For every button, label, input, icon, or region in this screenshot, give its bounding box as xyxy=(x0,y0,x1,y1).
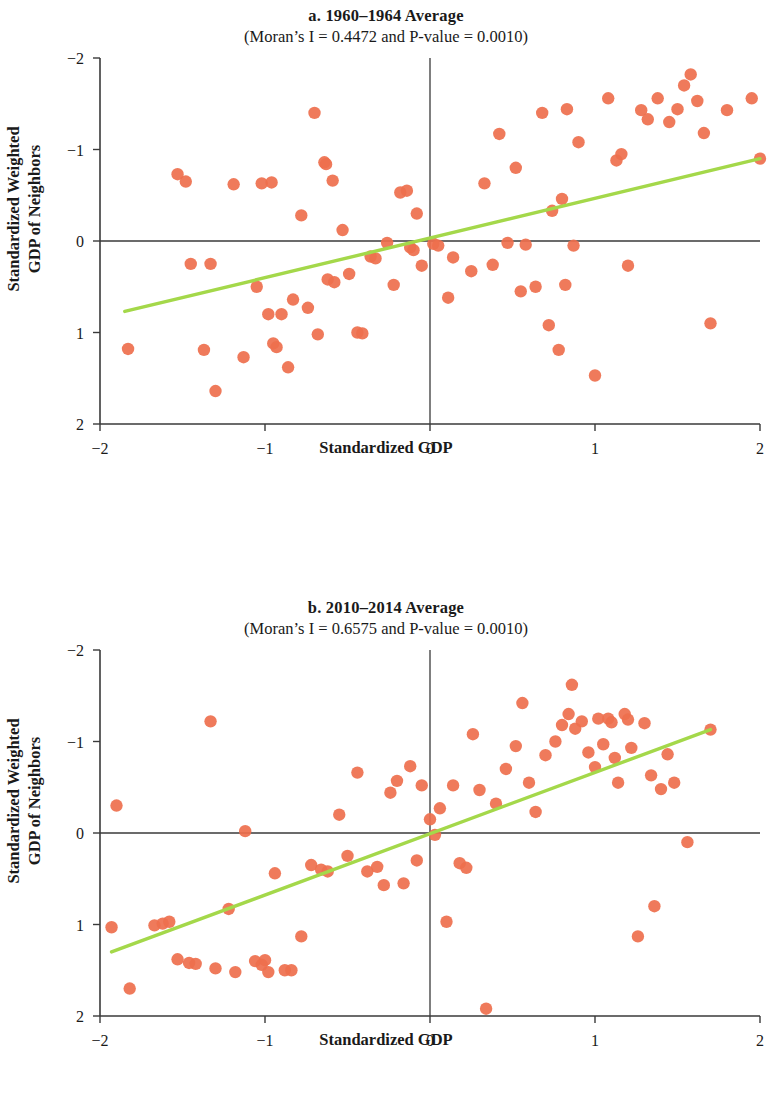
scatter-point xyxy=(411,207,423,219)
chart-panel-a: a. 1960–1964 Average (Moran’s I = 0.4472… xyxy=(0,0,772,560)
scatter-point xyxy=(467,728,479,740)
scatter-point xyxy=(566,679,578,691)
scatter-point xyxy=(543,319,555,331)
panel-b-subtitle: (Moran’s I = 0.6575 and P-value = 0.0010… xyxy=(0,618,772,640)
scatter-point xyxy=(652,92,664,104)
scatter-point xyxy=(239,825,251,837)
panel-a-y-axis-title-line2: GDP of Neighbors xyxy=(25,145,44,273)
scatter-point xyxy=(493,128,505,140)
scatter-point xyxy=(642,113,654,125)
scatter-point xyxy=(265,176,277,188)
panel-b-scatter-svg: −2−1012210−1−2 xyxy=(0,640,772,1060)
scatter-point xyxy=(645,769,657,781)
y-tick-label: −2 xyxy=(67,642,84,659)
panel-b-titles: b. 2010–2014 Average (Moran’s I = 0.6575… xyxy=(0,560,772,640)
scatter-point xyxy=(190,958,202,970)
scatter-point xyxy=(407,244,419,256)
scatter-point xyxy=(691,95,703,107)
scatter-point xyxy=(124,982,136,994)
panel-b-title: b. 2010–2014 Average xyxy=(0,598,772,618)
panel-a-titles: a. 1960–1964 Average (Moran’s I = 0.4472… xyxy=(0,0,772,48)
scatter-point xyxy=(320,158,332,170)
scatter-point xyxy=(401,184,413,196)
scatter-point xyxy=(442,292,454,304)
scatter-point xyxy=(582,746,594,758)
y-tick-label: 2 xyxy=(76,416,84,433)
scatter-point xyxy=(440,916,452,928)
scatter-point xyxy=(171,953,183,965)
scatter-point xyxy=(460,862,472,874)
scatter-point xyxy=(500,763,512,775)
scatter-point xyxy=(567,239,579,251)
scatter-point xyxy=(678,79,690,91)
scatter-point xyxy=(671,103,683,115)
scatter-point xyxy=(391,775,403,787)
scatter-point xyxy=(661,748,673,760)
scatter-point xyxy=(388,279,400,291)
scatter-point xyxy=(501,237,513,249)
scatter-point xyxy=(411,854,423,866)
scatter-point xyxy=(356,327,368,339)
scatter-point xyxy=(369,252,381,264)
scatter-point xyxy=(204,715,216,727)
scatter-point xyxy=(556,719,568,731)
scatter-point xyxy=(185,258,197,270)
y-tick-label: 1 xyxy=(76,917,84,934)
scatter-point xyxy=(520,238,532,250)
scatter-point xyxy=(312,328,324,340)
scatter-point xyxy=(698,127,710,139)
scatter-point xyxy=(648,900,660,912)
scatter-point xyxy=(270,341,282,353)
panel-b-y-axis-title: Standardized Weighted GDP of Neighbors xyxy=(3,691,45,911)
scatter-point xyxy=(275,308,287,320)
scatter-point xyxy=(612,776,624,788)
panel-a-plot-area: −2−1012210−1−2 Standardized Weighted GDP… xyxy=(0,48,772,468)
scatter-point xyxy=(404,760,416,772)
scatter-point xyxy=(668,776,680,788)
scatter-point xyxy=(397,877,409,889)
scatter-point xyxy=(561,103,573,115)
scatter-point xyxy=(209,962,221,974)
scatter-point xyxy=(625,742,637,754)
scatter-point xyxy=(602,92,614,104)
scatter-point xyxy=(384,787,396,799)
scatter-point xyxy=(597,738,609,750)
scatter-point xyxy=(326,174,338,186)
scatter-point xyxy=(515,285,527,297)
scatter-point xyxy=(605,716,617,728)
scatter-point xyxy=(282,361,294,373)
scatter-point xyxy=(447,779,459,791)
scatter-point xyxy=(681,836,693,848)
scatter-point xyxy=(259,954,271,966)
scatter-point xyxy=(559,279,571,291)
scatter-point xyxy=(180,175,192,187)
scatter-point xyxy=(556,193,568,205)
scatter-point xyxy=(638,717,650,729)
scatter-point xyxy=(576,715,588,727)
scatter-point xyxy=(336,224,348,236)
scatter-point xyxy=(465,265,477,277)
scatter-point xyxy=(328,276,340,288)
panel-b-x-axis-title: Standardized GDP xyxy=(0,1030,772,1050)
scatter-point xyxy=(371,861,383,873)
scatter-point xyxy=(105,921,117,933)
scatter-point xyxy=(333,809,345,821)
scatter-point xyxy=(295,930,307,942)
scatter-point xyxy=(343,268,355,280)
scatter-point xyxy=(110,799,122,811)
scatter-point xyxy=(510,740,522,752)
scatter-point xyxy=(351,766,363,778)
scatter-point xyxy=(302,302,314,314)
scatter-point xyxy=(237,351,249,363)
scatter-point xyxy=(704,317,716,329)
y-tick-label: 2 xyxy=(76,1008,84,1025)
scatter-point xyxy=(227,178,239,190)
scatter-point xyxy=(204,258,216,270)
scatter-point xyxy=(622,713,634,725)
scatter-point xyxy=(655,783,667,795)
scatter-point xyxy=(487,259,499,271)
scatter-point xyxy=(378,879,390,891)
panel-a-scatter-svg: −2−1012210−1−2 xyxy=(0,48,772,468)
scatter-point xyxy=(262,966,274,978)
panel-a-x-axis-title: Standardized GDP xyxy=(0,438,772,458)
